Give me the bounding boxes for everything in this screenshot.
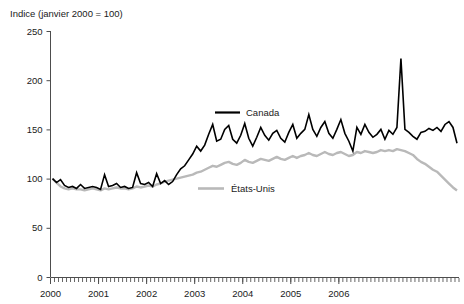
y-tick-label-group: 050100150200250 [27, 26, 43, 283]
legend-label-canada: Canada [246, 107, 280, 118]
x-tick-label: 2005 [280, 288, 301, 299]
x-minor-tick-group [51, 278, 460, 282]
chart-container: Indice (janvier 2000 = 100) 050100150200… [0, 0, 464, 304]
line-chart: Indice (janvier 2000 = 100) 050100150200… [0, 0, 464, 304]
series-line-canada [53, 59, 458, 190]
legend-canada: Canada [215, 107, 280, 118]
x-major-tick-group [51, 278, 339, 284]
x-tick-label: 2003 [184, 288, 205, 299]
x-tick-label: 2006 [328, 288, 349, 299]
y-axis: 050100150200250 [27, 26, 51, 283]
chart-axis-title: Indice (janvier 2000 = 100) [10, 8, 123, 19]
x-tick-label: 2001 [88, 288, 109, 299]
x-tick-label-group: 2000200120022003200420052006 [40, 288, 349, 299]
y-tick-group [47, 32, 51, 278]
y-tick-label: 200 [27, 75, 43, 86]
y-tick-label: 100 [27, 173, 43, 184]
x-tick-label: 2004 [232, 288, 253, 299]
x-axis: 2000200120022003200420052006 [40, 278, 459, 300]
x-tick-label: 2000 [40, 288, 61, 299]
y-tick-label: 0 [37, 272, 42, 283]
y-tick-label: 50 [32, 222, 43, 233]
y-tick-label: 250 [27, 26, 43, 37]
x-tick-label: 2002 [136, 288, 157, 299]
y-tick-label: 150 [27, 124, 43, 135]
legend-label-etats-unis: États-Unis [231, 183, 275, 194]
legend-etats-unis: États-Unis [198, 183, 275, 194]
